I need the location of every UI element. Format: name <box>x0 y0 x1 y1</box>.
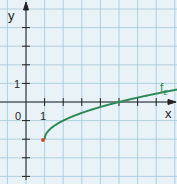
x-axis-label: x <box>165 106 172 121</box>
start-point <box>41 138 45 142</box>
y-axis-arrow-icon <box>24 2 29 10</box>
function-graph: y x 0 1 1 f2 <box>0 0 177 184</box>
y-axis-label: y <box>8 8 15 23</box>
f2-curve <box>45 89 177 139</box>
y-tick-1-label: 1 <box>14 78 20 90</box>
plot-area: y x 0 1 1 f2 <box>0 0 177 184</box>
x-tick-1-label: 1 <box>40 110 46 122</box>
origin-label: 0 <box>15 110 21 122</box>
axes <box>0 2 176 180</box>
